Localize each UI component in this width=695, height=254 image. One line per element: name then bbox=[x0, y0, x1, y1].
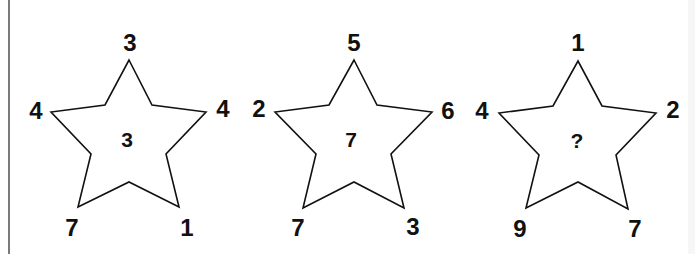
star-1-top-number: 3 bbox=[123, 31, 136, 55]
star-3-bottom-right-number: 7 bbox=[628, 217, 641, 241]
star-3-bottom-left-number: 9 bbox=[513, 217, 526, 241]
star-2-left-number: 2 bbox=[252, 97, 265, 121]
star-1-bottom-left-number: 7 bbox=[65, 216, 78, 240]
star-1: 3 4 4 7 1 3 bbox=[0, 0, 240, 254]
star-1-right-number: 4 bbox=[216, 97, 229, 121]
star-2-right-number: 6 bbox=[441, 99, 454, 123]
star-2: 5 2 6 7 3 7 bbox=[240, 0, 470, 254]
star-3-center-question-mark: ? bbox=[571, 130, 584, 151]
star-3: 1 4 2 9 7 ? bbox=[465, 0, 695, 254]
star-2-top-number: 5 bbox=[347, 31, 360, 55]
star-3-right-number: 2 bbox=[666, 98, 679, 122]
star-3-left-number: 4 bbox=[475, 99, 488, 123]
star-2-center-number: 7 bbox=[345, 129, 357, 150]
star-2-bottom-right-number: 3 bbox=[406, 215, 419, 239]
star-1-bottom-right-number: 1 bbox=[180, 216, 193, 240]
star-2-bottom-left-number: 7 bbox=[291, 216, 304, 240]
star-1-left-number: 4 bbox=[29, 99, 42, 123]
star-shape-icon bbox=[0, 0, 240, 254]
star-3-top-number: 1 bbox=[571, 31, 584, 55]
star-1-center-number: 3 bbox=[121, 129, 133, 150]
star-number-puzzle: 3 4 4 7 1 3 5 2 6 7 3 7 1 4 2 9 7 ? bbox=[0, 0, 695, 254]
